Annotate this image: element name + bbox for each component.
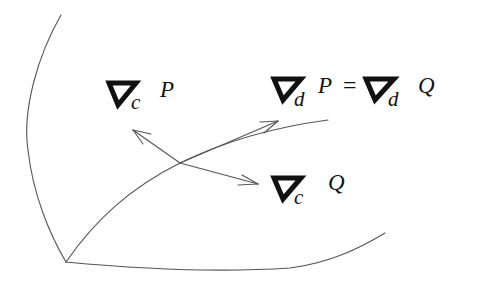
subscript-c: c bbox=[131, 90, 140, 115]
left-boundary-curve bbox=[27, 15, 66, 262]
bottom-boundary-curve bbox=[66, 233, 385, 270]
diagram-canvas bbox=[0, 0, 488, 287]
arrow-nabla-c-Q bbox=[180, 163, 258, 185]
operand-P: P bbox=[160, 77, 174, 103]
operand-Q: Q bbox=[418, 73, 435, 99]
arrow-nabla-c-P bbox=[133, 130, 180, 163]
operand-P: P bbox=[318, 73, 332, 99]
equals-sign: = bbox=[343, 72, 357, 99]
subscript-c: c bbox=[294, 185, 303, 210]
operand-Q: Q bbox=[328, 170, 345, 196]
arrow-nabla-d-P bbox=[180, 121, 278, 163]
subscript-d: d bbox=[388, 87, 399, 112]
subscript-d: d bbox=[294, 87, 305, 112]
